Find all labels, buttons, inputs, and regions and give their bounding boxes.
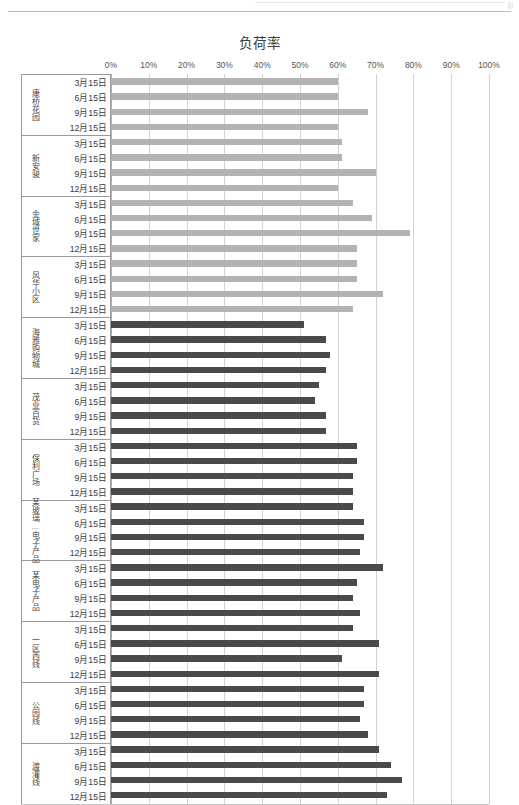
chart-bar[interactable] — [111, 169, 376, 175]
chart-bar[interactable] — [111, 367, 326, 373]
chart-bar[interactable] — [111, 93, 338, 99]
chart-bar[interactable] — [111, 686, 364, 692]
chart-bar[interactable] — [111, 519, 364, 525]
chart-bar[interactable] — [111, 336, 326, 342]
chart-bar[interactable] — [111, 230, 410, 236]
category-date-label: 12月15日 — [48, 606, 110, 621]
chart-bar-row — [111, 499, 519, 514]
chart-bar[interactable] — [111, 428, 326, 434]
x-axis-tick-100: 100% — [478, 60, 500, 70]
chart-bar[interactable] — [111, 200, 353, 206]
chart-bar-row — [111, 454, 519, 469]
category-group: 康桥花园3月15日6月15日9月15日12月15日 — [22, 75, 110, 136]
chart-bar-row — [111, 636, 519, 651]
chart-bar[interactable] — [111, 139, 342, 145]
category-date-list: 3月15日6月15日9月15日12月15日 — [48, 379, 110, 439]
chart-bar-row — [111, 150, 519, 165]
chart-bar[interactable] — [111, 762, 391, 768]
category-date-label: 3月15日 — [48, 379, 110, 394]
x-axis-tick-70: 70% — [367, 60, 384, 70]
chart-bar[interactable] — [111, 640, 379, 646]
category-group-label-text: 某电子产品 — [30, 571, 40, 611]
chart-bar[interactable] — [111, 701, 364, 707]
chart-bar[interactable] — [111, 792, 387, 798]
x-axis-tick-20: 20% — [178, 60, 195, 70]
chart-bars-layer — [111, 74, 519, 803]
chart-bar[interactable] — [111, 321, 304, 327]
category-group-label: 海雅购物城 — [22, 318, 48, 378]
category-date-label: 12月15日 — [48, 485, 110, 500]
chart-bar[interactable] — [111, 260, 357, 266]
chart-bar-row — [111, 697, 519, 712]
category-date-list: 3月15日6月15日9月15日12月15日 — [48, 197, 110, 257]
page-top-hairline — [255, 2, 505, 3]
chart-bar[interactable] — [111, 549, 360, 555]
chart-bar[interactable] — [111, 291, 383, 297]
chart-bar-row — [111, 742, 519, 757]
category-group: 保利广场3月15日6月15日9月15日12月15日 — [22, 440, 110, 501]
chart-bar-row — [111, 666, 519, 681]
chart-bar[interactable] — [111, 564, 383, 570]
category-date-label: 3月15日 — [48, 501, 110, 516]
chart-bar[interactable] — [111, 534, 364, 540]
chart-bar-row — [111, 682, 519, 697]
chart-bar[interactable] — [111, 412, 326, 418]
x-axis-tick-50: 50% — [291, 60, 308, 70]
chart-bar-row — [111, 317, 519, 332]
chart-bar[interactable] — [111, 306, 353, 312]
chart-bar[interactable] — [111, 124, 338, 130]
chart-bar[interactable] — [111, 245, 357, 251]
x-axis-tick-60: 60% — [329, 60, 346, 70]
category-group-label: 金域世家 — [22, 197, 48, 257]
category-date-label: 12月15日 — [48, 728, 110, 743]
chart-bar[interactable] — [111, 579, 357, 585]
category-date-label: 6月15日 — [48, 576, 110, 591]
chart-bar[interactable] — [111, 473, 353, 479]
chart-bar[interactable] — [111, 777, 402, 783]
category-group-label: 某电子产品 — [22, 561, 48, 621]
chart-bar[interactable] — [111, 397, 315, 403]
chart-bar[interactable] — [111, 215, 372, 221]
category-group-label-text: 公园线 — [30, 701, 40, 725]
chart-bar[interactable] — [111, 352, 330, 358]
category-group: 一区西线3月15日6月15日9月15日12月15日 — [22, 622, 110, 683]
category-group: 茂业百货3月15日6月15日9月15日12月15日 — [22, 379, 110, 440]
category-date-list: 3月15日6月15日9月15日12月15日 — [48, 561, 110, 621]
chart-bar-row — [111, 287, 519, 302]
category-date-label: 12月15日 — [48, 302, 110, 317]
category-group: 新安骏3月15日6月15日9月15日12月15日 — [22, 136, 110, 197]
chart-bar-row — [111, 590, 519, 605]
chart-bar-row — [111, 135, 519, 150]
chart-bar[interactable] — [111, 610, 360, 616]
chart-bar[interactable] — [111, 458, 357, 464]
category-date-label: 6月15日 — [48, 333, 110, 348]
chart-bar[interactable] — [111, 382, 319, 388]
chart-bar[interactable] — [111, 595, 353, 601]
chart-bar[interactable] — [111, 443, 357, 449]
chart-bar-row — [111, 378, 519, 393]
category-date-label: 3月15日 — [48, 136, 110, 151]
category-group-label: 渡灌线 — [22, 744, 48, 804]
chart-bar[interactable] — [111, 746, 379, 752]
x-axis-tick-0: 0% — [105, 60, 117, 70]
category-date-label: 6月15日 — [48, 637, 110, 652]
x-axis-tick-80: 80% — [405, 60, 422, 70]
chart-bar[interactable] — [111, 503, 353, 509]
chart-bar[interactable] — [111, 625, 353, 631]
chart-bar[interactable] — [111, 488, 353, 494]
chart-bar[interactable] — [111, 671, 379, 677]
category-group-label-text: 康桥花园 — [30, 89, 40, 121]
page-corner-mark: ||| — [508, 1, 513, 8]
chart-bar[interactable] — [111, 185, 338, 191]
chart-bar[interactable] — [111, 78, 338, 84]
chart-bar-row — [111, 180, 519, 195]
chart-bar[interactable] — [111, 276, 357, 282]
chart-bar[interactable] — [111, 716, 360, 722]
chart-bar[interactable] — [111, 655, 342, 661]
chart-bar[interactable] — [111, 154, 342, 160]
chart-bar[interactable] — [111, 109, 368, 115]
chart-bar[interactable] — [111, 731, 368, 737]
chart-bar-row — [111, 651, 519, 666]
chart-bar-row — [111, 211, 519, 226]
chart-bar-row — [111, 363, 519, 378]
